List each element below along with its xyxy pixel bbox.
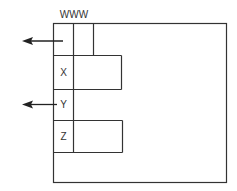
x-label: X <box>60 67 67 78</box>
z-label: Z <box>60 131 66 142</box>
memory-layout-diagram: WWW X Y Z <box>0 0 237 191</box>
top-arrow-icon <box>22 37 63 45</box>
y-arrow-icon <box>22 101 57 109</box>
y-label: Y <box>60 99 67 110</box>
www-label: WWW <box>60 9 89 20</box>
outer-box <box>54 24 227 183</box>
